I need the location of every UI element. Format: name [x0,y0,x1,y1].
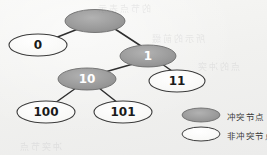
legend-conflict-swatch [182,108,220,122]
trie-diagram: 011011100101 的节点表示所示的前缀点的冲突冲突节点 冲突节点非冲突节… [0,0,267,155]
trie-node-n11[interactable]: 11 [149,70,205,92]
node-label-n1: 1 [144,49,152,63]
node-label-n100: 100 [33,105,58,119]
node-label-n0: 0 [34,38,42,52]
legend-shapes-layer [182,108,220,141]
node-label-n11: 11 [169,74,186,88]
trie-node-n100[interactable]: 100 [17,101,75,123]
node-label-n101: 101 [110,105,135,119]
nodes-layer: 011011100101 [9,10,205,124]
trie-node-n1[interactable]: 1 [120,45,176,67]
node-ellipse-root [65,10,125,33]
trie-node-n0[interactable]: 0 [9,34,67,56]
edge-10-100 [55,88,76,103]
edge-root-1 [115,29,141,46]
trie-node-root[interactable] [65,10,125,33]
node-label-n10: 10 [79,72,96,86]
trie-node-n10[interactable]: 10 [58,68,116,90]
edge-10-101 [99,88,118,103]
trie-node-n101[interactable]: 101 [94,101,152,123]
legend-nonconflict-label: 非冲突节点 [227,129,267,141]
edge-1-10 [105,64,133,72]
legend-conflict-label: 冲突节点 [227,110,265,122]
legend-nonconflict-swatch [182,127,220,141]
